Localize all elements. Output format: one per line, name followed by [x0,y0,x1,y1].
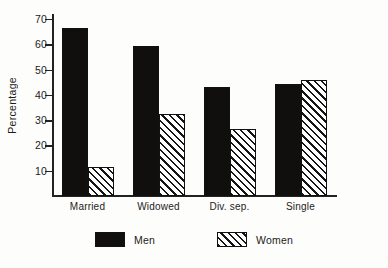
bar-men [275,84,301,196]
bar-women [159,114,185,196]
bar-group [204,87,256,196]
chart-legend: Men Women [0,232,388,247]
y-axis-tick-label: 70 [35,13,47,25]
legend-item-women: Women [217,232,293,247]
y-axis-tick-label: 20 [35,139,47,151]
legend-label-men: Men [134,234,155,246]
x-axis-category-label: Married [70,201,105,212]
y-axis-tick-label: 10 [35,164,47,176]
y-axis-tick-label: 60 [35,38,47,50]
legend-label-women: Women [256,234,293,246]
bar-women [301,80,327,196]
y-axis-title: Percentage [6,14,18,196]
x-axis-category-label: Div. sep. [210,201,250,212]
bar-men [133,46,159,196]
bar-women [88,167,114,196]
bar-men [204,87,230,196]
legend-swatch-women [217,232,247,247]
plot-area [52,14,336,196]
legend-item-men: Men [95,232,155,247]
legend-swatch-men [95,232,125,247]
y-axis-tick-label: 40 [35,89,47,101]
x-axis-category-label: Single [286,201,315,212]
bar-group [62,28,114,196]
x-axis-category-label: Widowed [137,201,180,212]
bar-men [62,28,88,196]
bar-group [133,46,185,196]
bar-chart-figure: Percentage 10203040506070 Men Women Marr… [0,0,388,268]
bar-group [275,80,327,196]
y-axis-tick-label: 50 [35,63,47,75]
bar-women [230,129,256,196]
y-axis-tick-label: 30 [35,114,47,126]
